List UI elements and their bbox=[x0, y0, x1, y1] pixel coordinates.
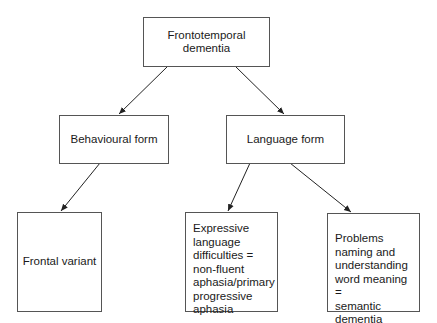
arrow-root-to-behavioural bbox=[119, 66, 168, 114]
arrow-behavioural-to-frontal bbox=[61, 163, 100, 211]
node-frontotemporal-dementia: Frontotemporal dementia bbox=[143, 17, 270, 67]
node-label: Behavioural form bbox=[71, 133, 158, 147]
node-frontal-variant: Frontal variant bbox=[17, 212, 102, 312]
node-expressive-language: Expressive language difficulties = non-f… bbox=[185, 212, 278, 312]
arrow-root-to-language bbox=[235, 66, 284, 114]
node-label: Frontal variant bbox=[23, 255, 97, 269]
arrow-language-to-semantic bbox=[290, 163, 351, 212]
arrow-language-to-expressive bbox=[228, 163, 250, 211]
node-language-form: Language form bbox=[226, 115, 345, 164]
node-label: Frontotemporal dementia bbox=[144, 29, 269, 56]
node-label: Language form bbox=[247, 133, 324, 147]
node-label: Problems naming and understanding word m… bbox=[335, 232, 413, 323]
node-semantic-dementia: Problems naming and understanding word m… bbox=[327, 213, 420, 312]
node-label: Expressive language difficulties = non-f… bbox=[193, 222, 271, 317]
node-behavioural-form: Behavioural form bbox=[59, 115, 169, 164]
